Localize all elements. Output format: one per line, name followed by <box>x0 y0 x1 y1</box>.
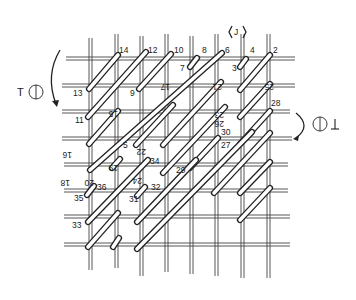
left-rotation-marker: T <box>17 50 60 107</box>
lattice-figure: 14 12 10 8 6 4 2 7 3 13 9 17 21 25 11 15… <box>0 0 356 300</box>
label-13: 13 <box>73 88 83 98</box>
label-29: 29 <box>176 165 186 175</box>
label-35: 35 <box>74 193 84 203</box>
label-12: 12 <box>148 45 158 55</box>
label-19: 19 <box>108 163 118 173</box>
label-5: 5 <box>123 140 128 150</box>
label-23: 23 <box>214 110 224 120</box>
label-24: 24 <box>132 176 142 186</box>
right-rotation-marker <box>293 113 339 141</box>
label-20: 20 <box>84 178 94 188</box>
label-6: 6 <box>225 45 230 55</box>
label-31: 31 <box>129 194 139 204</box>
label-7: 7 <box>180 63 185 73</box>
label-4: 4 <box>250 45 255 55</box>
label-27: 27 <box>221 140 231 150</box>
label-21: 21 <box>212 82 222 92</box>
label-8: 8 <box>202 45 207 55</box>
label-36: 36 <box>97 182 107 192</box>
label-9: 9 <box>130 88 135 98</box>
curved-arrow-icon-right <box>296 113 304 138</box>
label-17: 17 <box>160 82 170 92</box>
horizontal-strands <box>62 57 295 246</box>
label-28: 28 <box>271 98 281 108</box>
label-14: 14 <box>119 45 129 55</box>
label-30: 30 <box>221 127 231 137</box>
label-10: 10 <box>174 45 184 55</box>
label-3: 3 <box>232 63 237 73</box>
label-25: 25 <box>264 82 274 92</box>
label-22: 22 <box>136 147 146 157</box>
label-33: 33 <box>72 220 82 230</box>
label-11: 11 <box>75 115 84 125</box>
t-label-left: T <box>17 86 24 98</box>
label-16: 16 <box>62 150 72 160</box>
label-34: 34 <box>150 156 160 166</box>
curved-arrow-icon <box>51 50 60 104</box>
j-label: J <box>234 27 238 37</box>
j-direction-marker: J <box>229 26 246 38</box>
label-32: 32 <box>151 182 161 192</box>
label-18: 18 <box>60 178 70 188</box>
label-15: 15 <box>108 109 118 119</box>
label-2: 2 <box>273 45 278 55</box>
diagonal-rods <box>87 52 270 249</box>
